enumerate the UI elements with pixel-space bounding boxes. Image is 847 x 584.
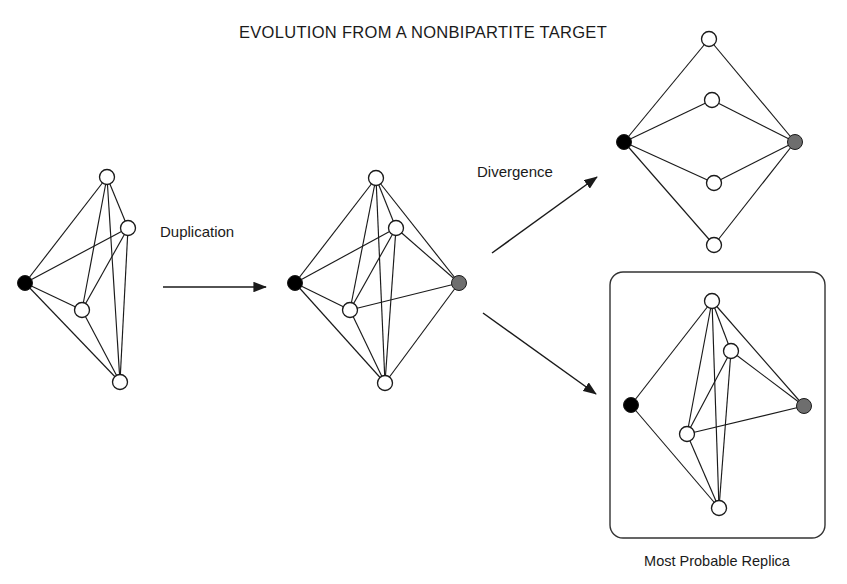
graph-node-gray <box>452 276 467 291</box>
graph-node-open <box>724 344 739 359</box>
graph-node-open <box>100 170 115 185</box>
graph-node-open <box>75 303 90 318</box>
graph-node-black <box>624 398 639 413</box>
graph-node-open <box>113 375 128 390</box>
page-title: EVOLUTION FROM A NONBIPARTITE TARGET <box>239 23 607 41</box>
graph-node-black <box>18 276 33 291</box>
graph-node-open <box>707 176 722 191</box>
graph-node-open <box>712 501 727 516</box>
graph-node-gray <box>797 399 812 414</box>
graph-node-black <box>617 135 632 150</box>
graph-node-open <box>343 303 358 318</box>
evolution-diagram: EVOLUTION FROM A NONBIPARTITE TARGET Dup… <box>0 0 847 584</box>
graph-node-gray <box>788 135 803 150</box>
graph-node-black <box>288 276 303 291</box>
divergence-label: Divergence <box>477 163 553 180</box>
duplication-label: Duplication <box>160 223 234 240</box>
graph-node-open <box>369 171 384 186</box>
graph-node-open <box>680 427 695 442</box>
graph-node-open <box>705 93 720 108</box>
graph-node-open <box>389 221 404 236</box>
graph-node-open <box>707 238 722 253</box>
graph-node-open <box>705 294 720 309</box>
graph-node-open <box>702 32 717 47</box>
replica-caption: Most Probable Replica <box>644 553 791 569</box>
graph-node-open <box>121 221 136 236</box>
graph-node-open <box>378 376 393 391</box>
